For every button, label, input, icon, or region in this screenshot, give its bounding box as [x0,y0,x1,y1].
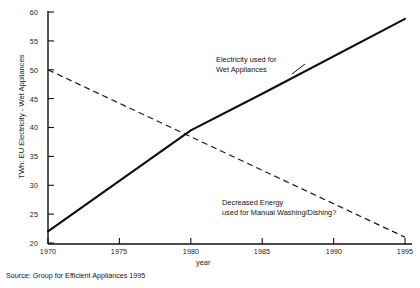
annotation-manual-line1: Decreased Energy [222,198,336,208]
annotation-wet-appliances: Electricity used for Wet Appliances [216,55,276,74]
annotation-wet-line1: Electricity used for [216,55,276,65]
y-axis-title: TWh: EU Electricity - Wet Appliances [17,42,26,192]
x-axis-title: year [196,258,210,267]
x-tick-label-1970: 1970 [33,247,63,256]
annotation-manual-line2: used for Manual Washing/Dishing? [222,208,336,218]
chart-container: 20 25 30 35 40 45 50 55 60 1970 1975 198… [0,0,420,288]
x-tick-label-1975: 1975 [104,247,134,256]
source-note: Source: Group for Efficient Appliances 1… [6,271,145,280]
y-tick-label-60: 60 [22,8,38,17]
x-tick-label-1990: 1990 [319,247,349,256]
x-tick-label-1995: 1995 [390,247,420,256]
annotation-manual-washing: Decreased Energy used for Manual Washing… [222,198,336,217]
x-tick-label-1985: 1985 [247,247,277,256]
y-tick-label-25: 25 [22,210,38,219]
annotation-wet-line2: Wet Appliances [216,65,276,75]
x-tick-label-1980: 1980 [176,247,206,256]
x-axis-ticks [48,238,405,244]
chart-plot-area [0,0,420,288]
y-axis-ticks [48,12,54,243]
